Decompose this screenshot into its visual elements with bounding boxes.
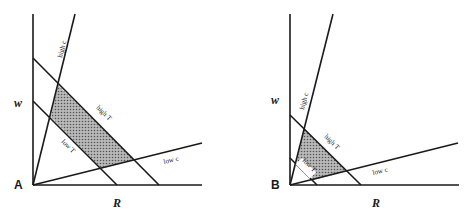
panel-label-a: A — [14, 178, 23, 192]
y-axis-label-a: w — [14, 96, 23, 110]
feasible-region-a — [51, 85, 134, 168]
x-axis-label-b: R — [371, 196, 380, 210]
high-t-label-a: high T — [95, 104, 114, 123]
high-c-label-b: high c — [298, 92, 310, 111]
low-c-label-b: low c — [372, 166, 389, 177]
panel-b: B R w high c high T low T low c — [271, 14, 459, 210]
high-t-line-a — [33, 58, 159, 185]
x-axis-label-a: R — [112, 196, 121, 210]
diagram-canvas: A R w high c high T low T low c B R w hi… — [0, 0, 471, 217]
panel-label-b: B — [271, 178, 280, 192]
panel-a: A R w high c high T low T low c — [14, 14, 202, 210]
y-axis-label-b: w — [271, 93, 280, 107]
low-c-label-a: low c — [163, 155, 180, 166]
